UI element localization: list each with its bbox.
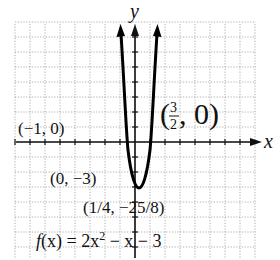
point-label-3half-0: ( 3 2 , 0)	[160, 97, 219, 132]
vertex-label: (1/4, −25/8)	[83, 198, 164, 217]
y-axis-arrow-icon	[131, 24, 139, 36]
parabola-curve	[121, 34, 157, 188]
parabola-chart: y x (−1, 0) ( 3 2 , 0) (0, −3) (1/4, −25…	[0, 0, 280, 260]
svg-text:f(x) = 2x2 − x − 3: f(x) = 2x2 − x − 3	[36, 229, 161, 252]
svg-text:(: (	[160, 97, 170, 131]
svg-text:2: 2	[170, 117, 177, 132]
point-label-neg1-0: (−1, 0)	[18, 119, 64, 138]
curve-right-arrow-icon	[153, 24, 162, 37]
y-axis-label: y	[128, 0, 139, 23]
svg-text:, 0): , 0)	[179, 97, 219, 131]
svg-text:3: 3	[170, 100, 177, 115]
curve-left-arrow-icon	[117, 24, 126, 37]
x-axis-label: x	[263, 130, 273, 152]
x-axis-arrow-icon	[250, 138, 262, 146]
point-label-0-neg3: (0, −3)	[50, 169, 96, 188]
equation-label: f(x) = 2x2 − x − 3	[36, 229, 161, 252]
